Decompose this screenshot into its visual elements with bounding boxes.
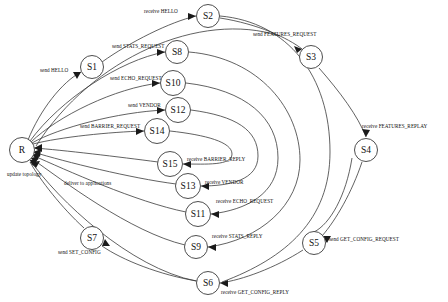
edge-label-send-hello: send HELLO	[40, 67, 69, 73]
arrowhead-r-to-s8	[157, 49, 165, 56]
node-label-S2: S2	[203, 11, 213, 21]
arrowhead-s14-to-s15	[183, 161, 191, 168]
arrowhead-r-to-s10	[152, 80, 160, 87]
state-diagram-svg: R S1 S2 S3 S4 S5	[0, 0, 448, 302]
edge-s6-to-r-sweep	[30, 160, 196, 281]
edge-s12-to-s13	[191, 110, 258, 186]
edge-label-send-stats-request: send STATS_REQUEST	[112, 43, 165, 49]
edge-label-send-get-config-request: send GET_CONFIG_REQUEST	[329, 236, 400, 242]
edge-s10-to-s11	[186, 83, 278, 214]
node-label-S8: S8	[172, 47, 182, 57]
node-S8[interactable]: S8	[166, 41, 189, 64]
node-S6[interactable]: S6	[197, 272, 220, 295]
edge-label-send-vendor: send VENDOR	[128, 102, 161, 108]
edge-label-update-topology: update topology	[7, 171, 42, 177]
edge-label-receive-features-replay: receive FEATURES_REPLAY	[362, 123, 428, 129]
edge-s3-to-s4	[319, 68, 366, 137]
node-label-R: R	[19, 145, 26, 155]
state-diagram-canvas: R S1 S2 S3 S4 S5	[0, 0, 448, 302]
node-label-S14: S14	[150, 126, 165, 136]
node-label-S13: S13	[181, 181, 196, 191]
node-S4[interactable]: S4	[355, 139, 378, 162]
node-S12[interactable]: S12	[166, 98, 191, 123]
node-label-S1: S1	[87, 62, 97, 72]
node-label-S7: S7	[87, 233, 97, 243]
arrowhead-s8-to-s9	[208, 244, 216, 251]
edge-label-deliver-to-applications: deliver to applications	[64, 180, 111, 186]
edge-label-send-features-request: send FEATURES_REQUEST	[253, 31, 317, 37]
node-label-S4: S4	[361, 145, 371, 155]
edge-r-to-s1	[28, 72, 81, 140]
node-S2[interactable]: S2	[197, 5, 220, 28]
node-label-S9: S9	[191, 242, 201, 252]
arrowhead-r-to-s1	[73, 72, 81, 79]
edge-label-receive-hello: receive HELLO	[144, 8, 178, 14]
edge-r-to-s14	[33, 131, 144, 144]
node-label-S10: S10	[166, 78, 181, 88]
node-S11[interactable]: S11	[186, 202, 211, 227]
arrowhead-s3-to-s4	[362, 129, 370, 137]
edge-label-send-echo-request: send ECHO_REQUEST	[110, 75, 162, 81]
node-label-S12: S12	[171, 105, 186, 115]
edge-label-send-barrier-request: send BARRIER_REQUEST	[80, 123, 141, 129]
edge-label-receive-barrier-reply: receive BARRIER_REPLY	[187, 156, 246, 162]
arrowhead-r-to-s12	[157, 107, 165, 114]
node-S15[interactable]: S15	[158, 152, 183, 177]
arrowhead-s1-to-s2	[188, 13, 196, 20]
edge-label-send-set-config: send SET_CONFIG	[58, 249, 101, 255]
node-S1[interactable]: S1	[81, 56, 104, 79]
node-label-S6: S6	[203, 278, 213, 288]
edge-label-receive-get-config-reply: receive GET_CONFIG_REPLY	[221, 289, 289, 295]
arrowhead-s10-to-s11	[211, 211, 219, 218]
edge-s6-to-s7	[102, 246, 197, 281]
node-S14[interactable]: S14	[145, 119, 170, 144]
node-S13[interactable]: S13	[176, 174, 201, 199]
arrowhead-r-to-s14	[136, 128, 144, 135]
node-label-S11: S11	[191, 209, 206, 219]
node-S7[interactable]: S7	[81, 227, 104, 250]
edge-label-receive-echo-request: receive ECHO_REQUEST	[216, 198, 274, 204]
edge-r-to-s10	[31, 83, 160, 142]
node-S5[interactable]: S5	[303, 232, 326, 255]
edge-label-receive-vendor: receive VENDOR	[205, 179, 244, 185]
node-S9[interactable]: S9	[185, 236, 208, 259]
node-S3[interactable]: S3	[300, 46, 323, 69]
node-label-S5: S5	[309, 238, 319, 248]
node-label-S15: S15	[163, 159, 178, 169]
node-R[interactable]: R	[10, 138, 35, 163]
node-label-S3: S3	[306, 52, 316, 62]
edge-s15-to-r	[34, 148, 158, 162]
edge-label-receive-stats-reply: receive STATS_REPLY	[212, 233, 263, 239]
edge-s4-to-s5	[322, 162, 362, 236]
node-S10[interactable]: S10	[161, 71, 186, 96]
